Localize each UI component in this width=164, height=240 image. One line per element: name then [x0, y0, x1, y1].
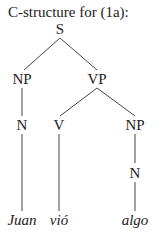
node-np: NP [12, 72, 31, 87]
leaf-vio: vió [50, 213, 68, 228]
leaf-algo: algo [122, 213, 149, 228]
edge-vp-v [60, 88, 97, 116]
node-s: S [56, 22, 64, 37]
leaf-juan: Juan [7, 213, 36, 228]
edge-vp-np [97, 88, 135, 116]
edge-s-np [24, 38, 60, 70]
node-vp: VP [87, 72, 106, 87]
node-n: N [17, 118, 28, 133]
edge-s-vp [60, 38, 97, 70]
node-np-object: NP [125, 118, 144, 133]
node-n-object: N [130, 166, 141, 181]
node-v: V [54, 118, 65, 133]
